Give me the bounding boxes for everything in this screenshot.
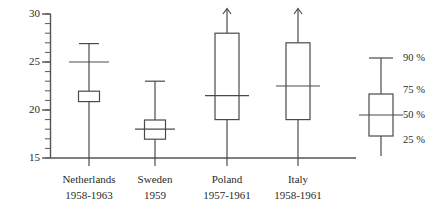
legend-key-box [359,58,403,156]
y-tick-label-30: 30 [16,8,40,19]
y-tick-label-15: 15 [16,152,40,163]
legend-label-90: 90 % [403,53,425,64]
category-name: Italy [253,174,343,185]
category-label-italy: Italy 1958-1961 [253,174,343,201]
box-netherlands [69,44,109,166]
y-tick-label-25: 25 [16,56,40,67]
box-sweden [135,81,175,166]
box-italy [276,9,320,167]
y-axis-minor-ticks [45,14,51,158]
legend-label-75: 75 % [403,85,425,96]
legend-label-25: 25 % [403,135,425,146]
legend-label-50: 50 % [403,110,425,121]
boxplot-figure: 30 25 20 15 Netherlands 1958-1963 Sweden… [0,0,447,218]
box-poland [205,9,249,167]
y-axis-major-ticks [42,14,51,158]
category-period: 1958-1961 [253,190,343,201]
y-tick-label-20: 20 [16,104,40,115]
